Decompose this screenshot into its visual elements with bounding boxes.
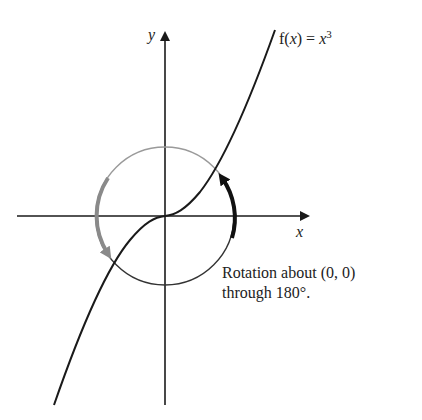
black-rotation-arrow — [222, 178, 235, 238]
caption-line-1: Rotation about (0, 0) — [222, 264, 355, 282]
caption-line-2: through 180°. — [222, 284, 310, 302]
y-axis-label: y — [146, 26, 156, 44]
x-axis-label: x — [295, 223, 303, 240]
function-label: f(x) = x3 — [279, 28, 332, 48]
rotation-diagram: y x f(x) = x3 Rotation about (0, 0) thro… — [0, 0, 422, 420]
